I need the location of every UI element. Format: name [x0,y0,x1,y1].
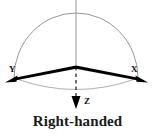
y-axis-shaft [16,66,76,81]
y-axis-label: Y [9,64,16,74]
right-handed-coordinate-figure: Y X Z Right-handed [0,0,155,136]
x-axis-label: X [131,64,138,74]
z-axis-label: Z [84,96,90,106]
z-axis-arrowhead [72,96,81,109]
x-axis-shaft [76,66,137,81]
y-axis-arrowhead [5,76,18,83]
figure-caption: Right-handed [0,113,155,130]
x-axis-arrowhead [136,76,149,83]
